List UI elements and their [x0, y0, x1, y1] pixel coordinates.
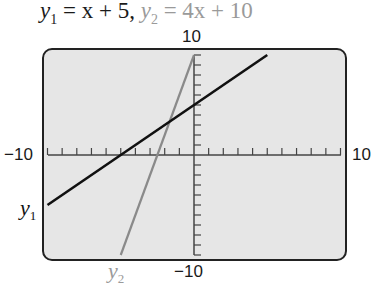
y-max-label: 10 [182, 27, 201, 47]
x-max-label: 10 [352, 145, 371, 165]
line-label-y1: y1 [20, 195, 36, 224]
line-label-y2: y2 [108, 258, 124, 287]
y-min-label: −10 [174, 262, 203, 282]
x-min-label: −10 [4, 145, 33, 165]
